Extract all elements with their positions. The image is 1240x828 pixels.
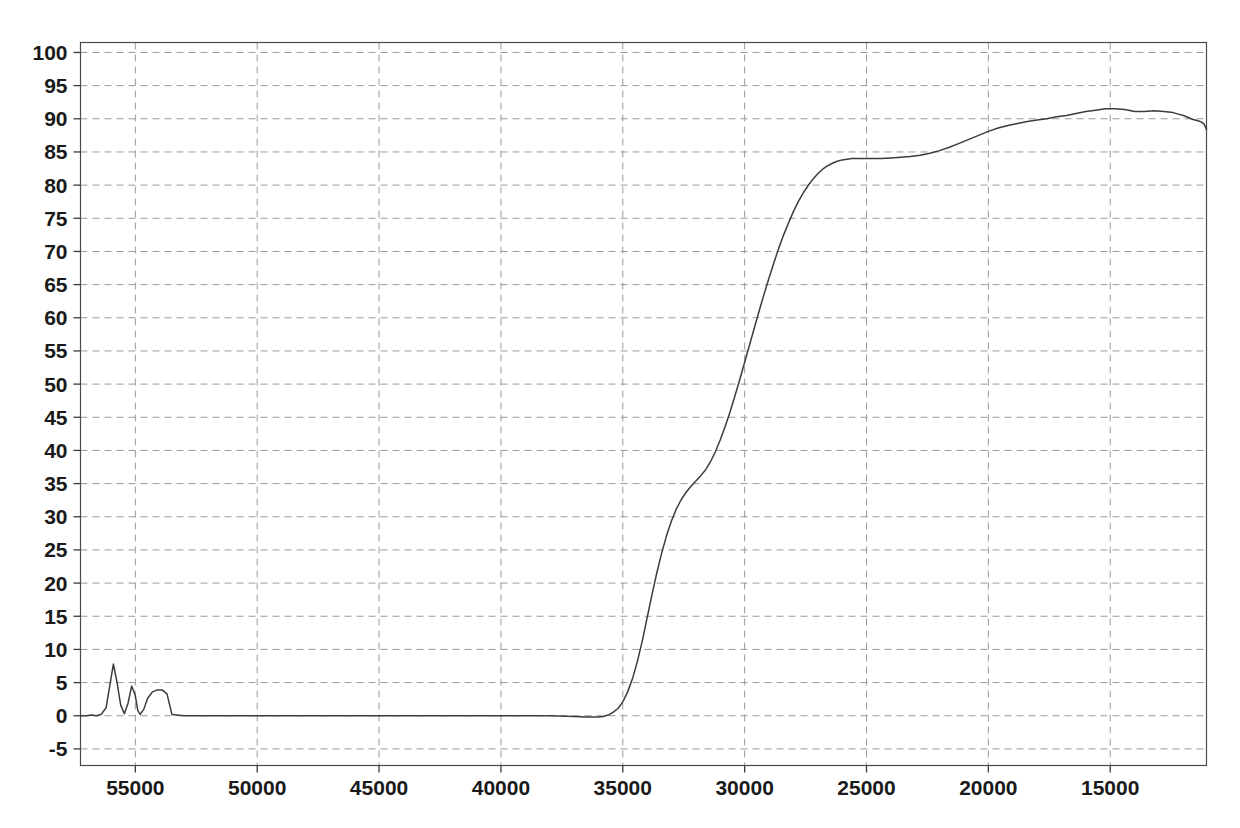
y-tick-label: 25: [44, 538, 68, 561]
y-tick-label: 30: [44, 505, 67, 528]
x-tick-label: 55000: [106, 776, 164, 799]
y-tick-label: 15: [44, 605, 68, 628]
y-tick-label: 85: [44, 140, 68, 163]
x-tick-label: 50000: [228, 776, 286, 799]
x-tick-label: 40000: [472, 776, 530, 799]
y-tick-label: 75: [44, 207, 68, 230]
y-tick-label: 100: [32, 41, 67, 64]
chart-figure: -505101520253035404550556065707580859095…: [0, 0, 1240, 828]
y-tick-label: 70: [44, 240, 67, 263]
x-axis-tick-labels: 5500050000450004000035000300002500020000…: [106, 776, 1139, 799]
y-tick-label: 0: [56, 704, 68, 727]
x-tick-label: 45000: [350, 776, 408, 799]
y-tick-label: 45: [44, 406, 68, 429]
y-tick-label: -5: [49, 737, 68, 760]
x-tick-label: 20000: [959, 776, 1017, 799]
y-tick-label: 60: [44, 306, 67, 329]
x-tick-label: 15000: [1081, 776, 1139, 799]
x-tick-label: 25000: [837, 776, 895, 799]
y-tick-label: 20: [44, 572, 67, 595]
y-tick-label: 95: [44, 74, 68, 97]
y-tick-label: 90: [44, 107, 67, 130]
y-tick-label: 50: [44, 373, 67, 396]
y-tick-label: 65: [44, 273, 68, 296]
x-tick-label: 35000: [594, 776, 652, 799]
y-tick-label: 35: [44, 472, 68, 495]
y-tick-label: 5: [56, 671, 68, 694]
y-tick-label: 55: [44, 339, 68, 362]
y-tick-label: 80: [44, 174, 67, 197]
chart-plot-svg: -505101520253035404550556065707580859095…: [0, 0, 1240, 828]
y-tick-label: 10: [44, 638, 67, 661]
figure-background: [0, 0, 1240, 828]
y-tick-label: 40: [44, 439, 67, 462]
x-tick-label: 30000: [715, 776, 773, 799]
